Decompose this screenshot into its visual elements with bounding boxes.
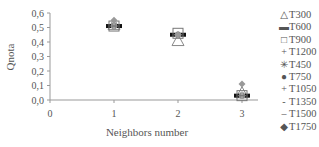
x-axis-label: Neighbors number — [106, 126, 189, 138]
legend-marker-icon: ✳ — [279, 59, 289, 71]
y-tick-label: 0,4 — [32, 37, 45, 48]
legend-label: T1500 — [289, 108, 316, 120]
x-tick-label: 1 — [112, 108, 117, 119]
y-axis-label: Qnota — [4, 43, 16, 70]
legend-marker-icon: + — [279, 83, 289, 95]
data-point-diamond-filled — [239, 81, 246, 88]
y-tick-label: 0,6 — [32, 8, 45, 19]
legend-item: -T1350 — [279, 96, 316, 108]
x-tick-label: 2 — [176, 108, 181, 119]
legend: △T300▬T600□T900+T1200✳T450●T750+T1050-T1… — [279, 9, 316, 133]
legend-marker-icon: - — [279, 96, 289, 108]
data-points — [106, 17, 250, 101]
legend-label: T1350 — [289, 96, 316, 108]
legend-label: T1750 — [289, 121, 316, 133]
legend-marker-icon: ▬ — [279, 21, 289, 33]
legend-label: T1200 — [289, 46, 316, 58]
legend-marker-icon: – — [279, 108, 289, 120]
legend-item: △T300 — [279, 9, 316, 21]
legend-marker-icon: △ — [279, 9, 289, 21]
legend-marker-icon: □ — [279, 34, 289, 46]
y-tick-label: 0,1 — [32, 80, 45, 91]
legend-item: ▬T600 — [279, 21, 316, 33]
legend-item: +T1200 — [279, 46, 316, 58]
y-ticks: 0,00,10,20,30,40,50,6 — [32, 8, 51, 106]
data-point-diamond-filled — [175, 31, 182, 38]
legend-marker-icon: ● — [279, 71, 289, 83]
legend-item: ◆T1750 — [279, 121, 316, 133]
scatter-chart: 0,00,10,20,30,40,50,6 0123 Qnota Neighbo… — [0, 0, 319, 147]
legend-label: T300 — [289, 9, 311, 21]
y-tick-label: 0,0 — [32, 95, 45, 106]
legend-item: ●T750 — [279, 71, 316, 83]
y-tick-label: 0,3 — [32, 51, 45, 62]
legend-label: T750 — [289, 71, 311, 83]
y-tick-label: 0,5 — [32, 22, 45, 33]
legend-item: +T1050 — [279, 83, 316, 95]
legend-marker-icon: ◆ — [279, 121, 289, 133]
x-ticks: 0123 — [48, 100, 245, 119]
legend-label: T1050 — [289, 83, 316, 95]
legend-label: T900 — [289, 34, 311, 46]
x-tick-label: 0 — [48, 108, 53, 119]
legend-label: T450 — [289, 59, 311, 71]
legend-label: T600 — [289, 21, 311, 33]
legend-item: ✳T450 — [279, 59, 316, 71]
legend-marker-icon: + — [279, 46, 289, 58]
legend-item: □T900 — [279, 34, 316, 46]
x-tick-label: 3 — [240, 108, 245, 119]
legend-item: –T1500 — [279, 108, 316, 120]
y-tick-label: 0,2 — [32, 66, 45, 77]
